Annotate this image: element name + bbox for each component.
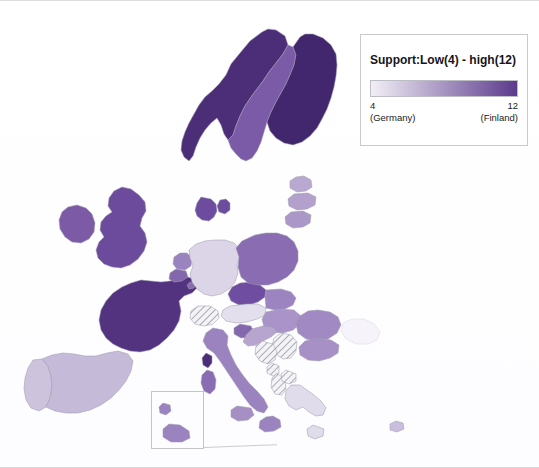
legend-scale: 4 (Germany) 12 (Finland) — [370, 100, 518, 124]
legend-title: Support:Low(4) - high(12) — [370, 53, 516, 67]
legend-high-value: 12 — [481, 100, 519, 112]
legend-low-value: 4 — [370, 100, 415, 112]
country-netherlands — [173, 253, 192, 270]
legend-low-end: 4 (Germany) — [370, 100, 415, 124]
legend-low-country: (Germany) — [370, 112, 415, 124]
map-inset-frame — [151, 391, 204, 449]
legend-high-end: 12 (Finland) — [481, 100, 519, 124]
legend-high-country: (Finland) — [481, 112, 519, 124]
map-legend: Support:Low(4) - high(12) 4 (Germany) 12… — [360, 34, 528, 146]
figure-panel: Moderators — [0, 0, 539, 468]
legend-gradient-bar — [370, 80, 518, 97]
